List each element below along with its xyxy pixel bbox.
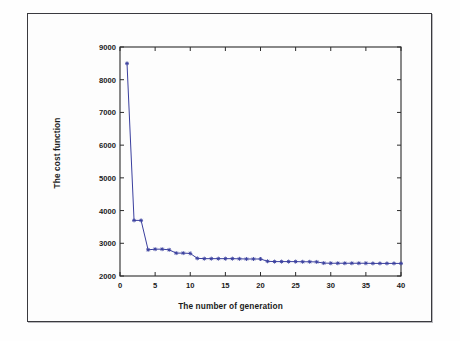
data-point-marker: [146, 248, 150, 252]
series-line: [127, 63, 401, 263]
data-point-marker: [230, 257, 234, 261]
chart-figure: The cost function The number of generati…: [28, 14, 433, 323]
x-tick-label: 30: [317, 281, 345, 290]
data-point-marker: [280, 260, 284, 264]
data-point-marker: [308, 260, 312, 264]
data-point-marker: [350, 261, 354, 265]
data-point-marker: [364, 261, 368, 265]
y-tick-label: 7000: [84, 108, 116, 117]
data-point-marker: [174, 251, 178, 255]
y-tick-label: 8000: [84, 76, 116, 85]
data-point-marker: [315, 260, 319, 264]
data-point-marker: [392, 261, 396, 265]
data-point-marker: [294, 260, 298, 264]
data-point-marker: [322, 261, 326, 265]
data-point-marker: [244, 257, 248, 261]
data-point-marker: [266, 259, 270, 263]
data-point-marker: [195, 256, 199, 260]
axis-box: [120, 47, 401, 276]
data-point-marker: [139, 218, 143, 222]
y-tick-label: 2000: [84, 272, 116, 281]
data-point-marker: [385, 261, 389, 265]
figure-frame: The cost function The number of generati…: [27, 13, 432, 322]
data-point-marker: [399, 261, 403, 265]
data-point-marker: [125, 61, 129, 65]
x-tick-label: 20: [247, 281, 275, 290]
data-point-marker: [336, 261, 340, 265]
y-tick-label: 3000: [84, 239, 116, 248]
data-point-marker: [329, 261, 333, 265]
data-point-marker: [167, 248, 171, 252]
y-tick-label: 6000: [84, 141, 116, 150]
y-tick-label: 9000: [84, 43, 116, 52]
y-tick-label: 4000: [84, 207, 116, 216]
data-point-marker: [251, 257, 255, 261]
x-tick-label: 35: [352, 281, 380, 290]
y-axis-title: The cost function: [52, 118, 62, 189]
data-point-marker: [188, 251, 192, 255]
y-tick-label: 5000: [84, 174, 116, 183]
data-point-marker: [216, 257, 220, 261]
data-point-marker: [202, 257, 206, 261]
data-point-marker: [301, 260, 305, 264]
screenshot-root: The cost function The number of generati…: [0, 0, 460, 341]
data-point-marker: [153, 247, 157, 251]
x-tick-label: 0: [106, 281, 134, 290]
x-axis-title: The number of generation: [28, 301, 433, 311]
data-point-marker: [237, 257, 241, 261]
x-tick-label: 10: [176, 281, 204, 290]
data-point-marker: [209, 257, 213, 261]
data-point-marker: [273, 260, 277, 264]
x-tick-label: 25: [282, 281, 310, 290]
x-tick-label: 5: [141, 281, 169, 290]
data-point-marker: [160, 247, 164, 251]
data-point-marker: [371, 261, 375, 265]
data-point-marker: [357, 261, 361, 265]
data-point-marker: [287, 260, 291, 264]
data-point-marker: [181, 251, 185, 255]
data-point-marker: [223, 257, 227, 261]
data-point-marker: [378, 261, 382, 265]
data-point-marker: [132, 218, 136, 222]
data-point-marker: [259, 257, 263, 261]
x-tick-label: 15: [211, 281, 239, 290]
x-tick-label: 40: [387, 281, 415, 290]
data-point-marker: [343, 261, 347, 265]
y-axis-title-wrap: The cost function: [46, 93, 64, 213]
